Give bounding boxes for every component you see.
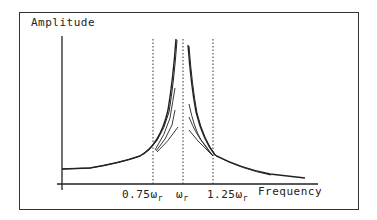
resonance-curves [62,39,305,178]
omega-symbol: ω [151,188,158,201]
subscript-r: r [183,194,188,203]
tick-1: ωr [176,188,188,201]
y-axis-label: Amplitude [31,16,95,29]
tick-125: 1.25ωr [207,188,248,201]
tick-125-value: 1.25 [207,188,236,201]
x-axis-label: Frequency [258,185,322,198]
omega-symbol: ω [236,188,243,201]
tick-075-value: 0.75 [122,188,151,201]
subscript-r: r [158,194,163,203]
tick-075: 0.75ωr [122,188,163,201]
subscript-r: r [243,194,248,203]
